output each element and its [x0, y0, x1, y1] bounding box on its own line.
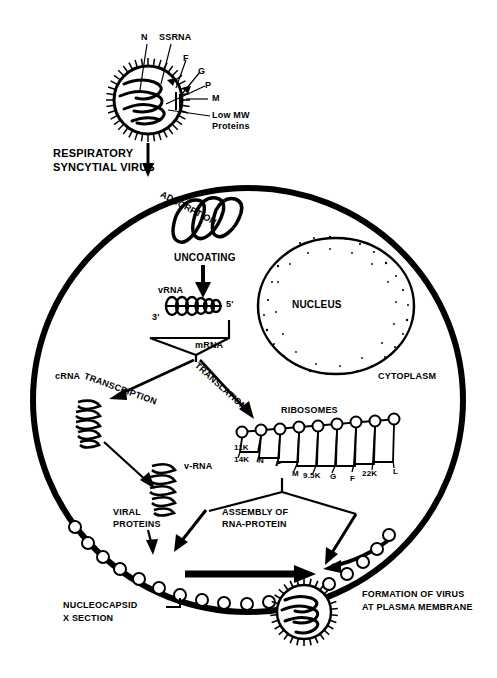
- product-m: M: [292, 470, 299, 479]
- label-v-rna: v-RNA: [184, 462, 213, 472]
- viral-proteins-arrow: [146, 530, 158, 555]
- label-nucleus: NUCLEUS: [292, 300, 342, 311]
- label-formation-line2: AT PLASMA MEMBRANE: [362, 603, 473, 613]
- product-9-5k: 9.5K: [303, 472, 321, 481]
- step-assembly-line2: RNA-PROTEIN: [222, 520, 287, 530]
- product-f: F: [350, 475, 355, 484]
- label-viral-proteins-line2: PROTEINS: [113, 520, 161, 530]
- virion-caption-line1: RESPIRATORY: [53, 148, 133, 160]
- label-ssrna: SSRNA: [159, 33, 192, 43]
- label-5-prime: 5': [226, 300, 234, 310]
- label-nucleocapsid-line2: X SECTION: [63, 614, 113, 624]
- step-assembly-line1: ASSEMBLY OF: [222, 508, 288, 518]
- label-mrna: mRNA: [195, 341, 223, 351]
- virion-caption-line2: SYNCYTIAL VIRUS: [53, 162, 155, 174]
- product-22k: 22K: [362, 470, 377, 479]
- label-ribosomes: RIBOSOMES: [281, 406, 338, 416]
- label-m: M: [212, 94, 220, 104]
- label-cytoplasm: CYTOPLASM: [378, 372, 436, 382]
- diagram-artwork: [0, 0, 497, 678]
- assembly-right-arrow: [325, 514, 356, 565]
- product-n: N: [258, 457, 264, 466]
- vrna-helix: [166, 297, 222, 315]
- label-nucleocapsid-line1: NUCLEOCAPSID: [63, 601, 137, 611]
- label-low-mw-proteins: Proteins: [212, 122, 250, 132]
- label-crna: cRNA: [55, 372, 80, 382]
- membrane-nucleocapsid-beads: [69, 521, 395, 610]
- label-f: F: [183, 54, 189, 64]
- label-vrna: vRNA: [158, 286, 183, 296]
- product-l: L: [393, 468, 398, 477]
- product-p: P: [276, 460, 282, 469]
- label-3-prime: 3': [152, 313, 160, 323]
- label-p: P: [205, 81, 211, 91]
- uncoating-arrow: [195, 265, 211, 298]
- cell-membrane: [33, 188, 463, 612]
- label-n: N: [141, 33, 148, 43]
- label-low-mw: Low MW: [212, 111, 250, 121]
- product-11k: 11K: [234, 444, 249, 453]
- product-g: G: [330, 473, 336, 482]
- product-14k: 14K: [234, 456, 249, 465]
- nucleocapsid-transport-arrow: [185, 565, 316, 583]
- crna-helix: [76, 401, 100, 448]
- figure-canvas: N SSRNA F G P M Low MW Proteins RESPIRAT…: [0, 0, 497, 678]
- label-viral-proteins-line1: VIRAL: [113, 508, 141, 518]
- label-g: G: [198, 67, 205, 77]
- step-uncoating: UNCOATING: [174, 253, 236, 264]
- label-formation-line1: FORMATION OF VIRUS: [362, 590, 464, 600]
- crna-to-vrna-arrow: [104, 442, 155, 489]
- assembly-left-arrow: [174, 510, 206, 552]
- v-rna-helix: [150, 464, 175, 515]
